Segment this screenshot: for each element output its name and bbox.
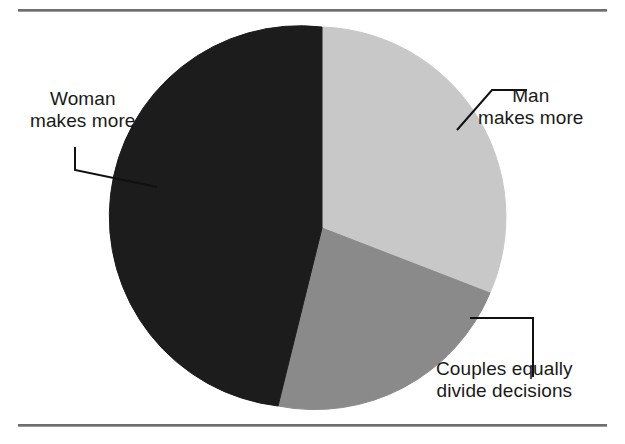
- pie-label-man: Man makes more: [478, 85, 584, 129]
- pie-label-woman-line1: Woman: [30, 88, 136, 110]
- pie-label-man-line2: makes more: [478, 107, 584, 129]
- pie-label-couples: Couples equally divide decisions: [436, 358, 573, 402]
- pie-label-couples-line1: Couples equally: [436, 358, 573, 380]
- pie-label-woman-line2: makes more: [30, 110, 136, 132]
- pie-chart-figure: Woman makes more Man makes more Couples …: [0, 0, 625, 444]
- pie-label-woman: Woman makes more: [30, 88, 136, 132]
- pie-label-man-line1: Man: [478, 85, 584, 107]
- pie-slice-woman[interactable]: [109, 26, 322, 406]
- pie-label-couples-line2: divide decisions: [436, 380, 573, 402]
